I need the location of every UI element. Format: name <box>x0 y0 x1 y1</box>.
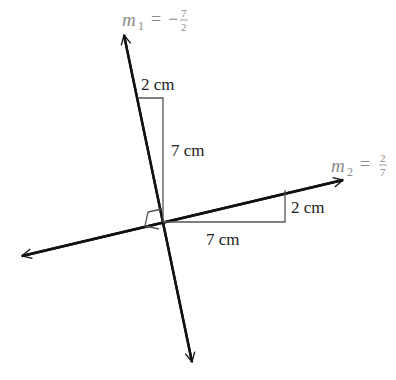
line-1-run-label: 2 cm <box>141 75 175 94</box>
line-1-slope-label: m 1 = − 7 2 <box>122 7 188 33</box>
svg-text:2: 2 <box>347 165 353 179</box>
svg-text:7: 7 <box>380 166 386 178</box>
svg-text:1: 1 <box>138 19 144 33</box>
line-2-left-arrow <box>22 180 343 256</box>
diagram-canvas: 2 cm 7 cm 2 cm 7 cm m 1 = − 7 2 m 2 = 2 … <box>0 0 396 380</box>
line-2-rise-label: 2 cm <box>291 198 325 217</box>
svg-text:2: 2 <box>380 152 386 164</box>
svg-text:m: m <box>331 155 345 176</box>
svg-text:−: − <box>168 9 178 29</box>
svg-text:m: m <box>122 9 136 30</box>
svg-text:2: 2 <box>181 21 187 33</box>
svg-text:7: 7 <box>181 7 187 19</box>
line-1-rise-label: 7 cm <box>171 141 205 160</box>
svg-text:=: = <box>360 154 370 174</box>
svg-text:=: = <box>151 9 161 29</box>
line-2-run-label: 7 cm <box>206 230 240 249</box>
line-2-slope-label: m 2 = 2 7 <box>331 152 387 179</box>
